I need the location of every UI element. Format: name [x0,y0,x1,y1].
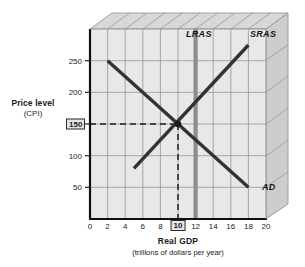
y-axis-title-sub: (CPI) [0,109,66,119]
x-axis-title-sub: (trillions of dollars per year) [88,248,268,257]
x-tick-label-12: 12 [191,222,200,231]
x-tick-label-0: 0 [88,222,92,231]
chart-figure: Price level (CPI) 250 200 150 100 50 0 2… [0,0,305,267]
curve-label-ad: AD [262,182,276,192]
x-tick-label-8: 8 [158,222,162,231]
x-tick-label-6: 6 [141,222,145,231]
y-axis-title-main: Price level [0,98,66,109]
y-axis-title: Price level (CPI) [0,98,66,119]
x-tick-label-20: 20 [262,222,271,231]
y-tick-label-200: 200 [58,88,82,97]
y-tick-label-50: 50 [58,183,82,192]
y-tick-label-100: 100 [58,151,82,160]
x-tick-label-4: 4 [123,222,127,231]
y-tick-label-150-highlighted: 150 [66,119,85,130]
x-tick-label-18: 18 [244,222,253,231]
x-axis-title-main: Real GDP [88,236,268,246]
x-axis-title: Real GDP (trillions of dollars per year) [88,236,268,257]
curve-label-lras: LRAS [186,29,212,39]
x-tick-label-2: 2 [105,222,109,231]
x-tick-label-14: 14 [209,222,218,231]
equilibrium-point-marker [175,121,182,128]
y-tick-label-250: 250 [58,56,82,65]
x-tick-label-16: 16 [226,222,235,231]
curve-label-sras: SRAS [250,29,276,39]
chart-canvas [0,0,305,267]
x-tick-label-10-highlighted: 10 [171,220,186,231]
